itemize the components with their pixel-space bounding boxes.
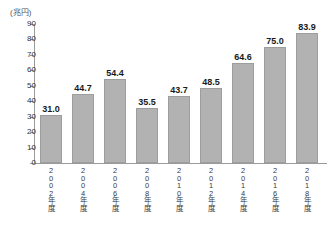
bar [136, 108, 158, 163]
bar [232, 63, 254, 163]
y-axis-tick-label: 0 [14, 159, 36, 167]
bar [264, 47, 286, 163]
x-axis-tick-label: 2008年度 [131, 167, 163, 213]
bar-group: 43.7 [163, 24, 195, 163]
bar [104, 79, 126, 163]
y-axis-tick-label: 50 [14, 82, 36, 90]
bar-value-label: 83.9 [291, 22, 323, 32]
y-axis-tick-label: 90 [14, 20, 36, 28]
bar [40, 115, 62, 163]
bar-group: 48.5 [195, 24, 227, 163]
bar [72, 94, 94, 163]
bar-value-label: 54.4 [99, 68, 131, 78]
y-axis-tick-label: 20 [14, 128, 36, 136]
bar-value-label: 43.7 [163, 85, 195, 95]
y-axis-tick-label: 60 [14, 66, 36, 74]
bar-value-label: 48.5 [195, 77, 227, 87]
bar [296, 33, 318, 163]
bar-group: 75.0 [259, 24, 291, 163]
bar-chart: (兆円) 9080706050403020100 31.044.754.435.… [0, 0, 331, 229]
bar-group: 44.7 [67, 24, 99, 163]
bar-group: 83.9 [291, 24, 323, 163]
y-axis-tick-label: 40 [14, 97, 36, 105]
plot-area: 31.044.754.435.543.748.564.675.083.9 [34, 24, 327, 163]
y-axis-tick-label: 80 [14, 35, 36, 43]
bar-group: 54.4 [99, 24, 131, 163]
x-axis-tick-label: 2014年度 [227, 167, 259, 213]
bar-group: 35.5 [131, 24, 163, 163]
y-axis-unit-label: (兆円) [10, 6, 31, 17]
x-axis-tick-label: 2006年度 [99, 167, 131, 213]
bar-value-label: 64.6 [227, 52, 259, 62]
bar-value-label: 31.0 [35, 104, 67, 114]
x-axis-tick-label: 2002年度 [35, 167, 67, 213]
x-axis-tick-label: 2004年度 [67, 167, 99, 213]
bar-value-label: 35.5 [131, 97, 163, 107]
y-axis-tick-label: 10 [14, 144, 36, 152]
bar-value-label: 75.0 [259, 36, 291, 46]
x-axis-tick-label: 2016年度 [259, 167, 291, 213]
x-axis-tick-label: 2010年度 [163, 167, 195, 213]
x-axis-tick-label: 2012年度 [195, 167, 227, 213]
x-axis-line [34, 163, 327, 164]
bar-group: 64.6 [227, 24, 259, 163]
bar-group: 31.0 [35, 24, 67, 163]
y-axis-tick-label: 70 [14, 51, 36, 59]
bar [168, 96, 190, 163]
bar-value-label: 44.7 [67, 83, 99, 93]
x-axis-tick-label: 2018年度 [291, 167, 323, 213]
y-axis-tick-label: 30 [14, 113, 36, 121]
bar [200, 88, 222, 163]
